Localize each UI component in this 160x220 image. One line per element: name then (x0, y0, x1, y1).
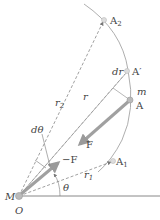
label-M: M (4, 191, 16, 202)
label-A2: A2 (109, 15, 122, 28)
orbit-diagram: A2 A′ dr m A A1 r2 r r1 F −F dθ θ M O (0, 0, 160, 220)
label-O: O (15, 205, 23, 216)
point-A-prime (125, 69, 130, 74)
point-O (16, 193, 23, 200)
force-neg-F (21, 163, 58, 194)
label-m: m (137, 86, 146, 97)
label-A: A (135, 100, 144, 111)
label-r: r (83, 91, 89, 102)
label-dr: dr (112, 66, 124, 77)
label-A1: A1 (115, 156, 128, 169)
theta-arc (54, 174, 60, 196)
point-A1 (111, 159, 116, 164)
dtheta-tick (35, 160, 46, 168)
label-neg-F: −F (62, 154, 77, 165)
label-r2: r2 (55, 97, 65, 110)
point-A2 (102, 18, 107, 23)
force-F (80, 101, 129, 144)
label-dtheta: dθ (31, 124, 43, 135)
label-r1: r1 (84, 169, 93, 182)
label-A-prime: A′ (131, 66, 142, 77)
dtheta-pointer (42, 134, 50, 166)
label-F: F (86, 139, 93, 150)
point-A (127, 97, 133, 103)
label-theta: θ (63, 182, 69, 193)
